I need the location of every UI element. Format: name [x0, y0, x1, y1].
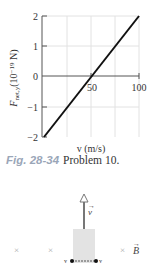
y-tick: 1 [33, 41, 38, 52]
y-tick: −2 [27, 132, 38, 143]
strip-figure: v → × × × B → y y [14, 194, 140, 263]
cross-icon: × [48, 245, 53, 255]
edge-label: y [99, 258, 102, 263]
y-tick: 2 [33, 11, 38, 22]
y-tick: −1 [27, 102, 38, 113]
x-tick: 100 [132, 82, 147, 93]
figure-canvas: 2 1 0 −1 −2 50 100 v (m/s) Fnet,y(10−19 … [0, 0, 161, 263]
x-tick: 50 [87, 82, 97, 93]
arrowhead-icon [80, 194, 88, 202]
edge-point [94, 259, 98, 263]
problem-ref: Problem 10. [63, 154, 119, 166]
y-tick: 0 [33, 71, 38, 82]
cross-icon: × [14, 245, 19, 255]
figure-number: Fig. 28-34 [6, 154, 59, 166]
edge-label: y [64, 258, 67, 263]
strip [73, 229, 95, 263]
figure-caption: Fig. 28-34Problem 10. [6, 154, 119, 166]
edge-point [70, 259, 74, 263]
svg-text:→: → [133, 240, 140, 248]
y-axis-label: Fnet,y(10−19 N) [8, 49, 21, 107]
cross-icon: × [120, 245, 125, 255]
svg-text:Fnet,y(10−19 N): Fnet,y(10−19 N) [8, 49, 21, 107]
svg-text:→: → [88, 202, 95, 210]
